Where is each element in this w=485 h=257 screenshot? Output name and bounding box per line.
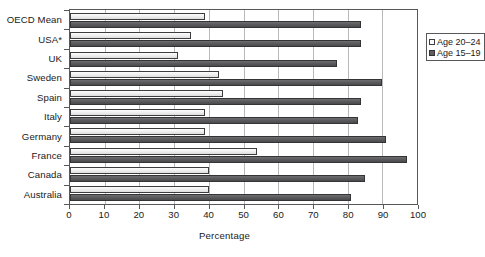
x-tick-label-70: 70: [308, 209, 319, 220]
bar: [70, 186, 209, 193]
y-axis-label-canada: Canada: [0, 165, 66, 184]
bar-group: [70, 88, 417, 107]
x-tick-label-20: 20: [133, 209, 144, 220]
bar: [70, 79, 382, 86]
bar: [70, 71, 219, 78]
bar: [70, 13, 205, 20]
bar-group: [70, 165, 417, 184]
bar: [70, 52, 178, 59]
light-square-swatch: [429, 39, 435, 45]
plot-area: Age 20–24Age 15–19: [69, 9, 418, 205]
y-axis-category-labels: OECD MeanUSA*UKSwedenSpainItalyGermanyFr…: [0, 9, 66, 205]
x-tick-label-40: 40: [203, 209, 214, 220]
bottom-cropped-caption: [0, 250, 439, 257]
bar-group: [70, 184, 417, 203]
dark-square-swatch: [429, 50, 435, 56]
y-axis-label-oecd-mean: OECD Mean: [0, 10, 66, 29]
bar: [70, 60, 337, 67]
y-axis-label-sweden: Sweden: [0, 68, 66, 87]
bar: [70, 109, 205, 116]
bar-group: [70, 11, 417, 30]
x-axis-title-text: Percentage: [199, 230, 250, 241]
bar: [70, 175, 365, 182]
legend-item-label: Age 15–19: [437, 48, 481, 58]
bar: [70, 98, 361, 105]
bar: [70, 117, 358, 124]
x-tick-label-100: 100: [410, 209, 426, 220]
y-axis-label-germany: Germany: [0, 126, 66, 145]
x-axis-tick-labels: 0102030405060708090100: [0, 209, 439, 223]
bar-groups: [70, 10, 417, 204]
legend-item: Age 15–19: [429, 47, 481, 58]
chart-legend: Age 20–24Age 15–19: [426, 33, 485, 61]
bar: [70, 167, 209, 174]
x-tick-label-60: 60: [273, 209, 284, 220]
legend-item: Age 20–24: [429, 36, 481, 47]
bar: [70, 40, 361, 47]
y-axis-label-uk: UK: [0, 49, 66, 68]
legend-item-label: Age 20–24: [437, 37, 481, 47]
y-axis-label-france: France: [0, 146, 66, 165]
x-axis-title: Percentage: [0, 230, 439, 241]
x-tick-label-50: 50: [238, 209, 249, 220]
bar: [70, 90, 223, 97]
x-tick-label-30: 30: [168, 209, 179, 220]
bar: [70, 194, 351, 201]
bar: [70, 148, 257, 155]
y-axis-label-usa: USA*: [0, 29, 66, 48]
x-tick-label-10: 10: [99, 209, 110, 220]
bar: [70, 156, 407, 163]
bar: [70, 136, 386, 143]
bar-group: [70, 107, 417, 126]
bar: [70, 128, 205, 135]
y-axis-label-australia: Australia: [0, 185, 66, 204]
bar: [70, 32, 191, 39]
y-axis-label-spain: Spain: [0, 88, 66, 107]
bar-group: [70, 30, 417, 49]
bar-group: [70, 49, 417, 68]
bar-group: [70, 145, 417, 164]
x-tick-label-80: 80: [343, 209, 354, 220]
bar-group: [70, 126, 417, 145]
bar-group: [70, 69, 417, 88]
x-tick-label-90: 90: [378, 209, 389, 220]
x-tick-label-0: 0: [66, 209, 71, 220]
bar: [70, 21, 361, 28]
y-axis-label-italy: Italy: [0, 107, 66, 126]
